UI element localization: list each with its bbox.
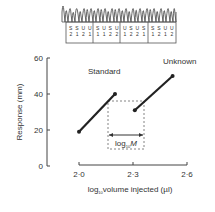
- data-point: [113, 92, 117, 96]
- y-tick-label: 40: [34, 90, 43, 99]
- x-tick-label: 2·6: [181, 170, 193, 179]
- data-point: [133, 108, 137, 112]
- unknown-label: Unknown: [163, 57, 196, 66]
- series-standard: [77, 92, 117, 134]
- strip-sub: 1: [76, 31, 79, 37]
- standard-label: Standard: [88, 67, 120, 76]
- strip-sub: 2: [130, 31, 133, 37]
- x-tick-label: 2·3: [127, 170, 139, 179]
- strip-sub: 1: [142, 31, 145, 37]
- strip-sub: 2: [109, 31, 112, 37]
- strip-sub: 2: [136, 31, 139, 37]
- data-point: [77, 130, 81, 134]
- data-point: [171, 74, 175, 78]
- y-tick-label: 20: [34, 126, 43, 135]
- y-axis: 0204060 Response (mm): [15, 54, 50, 171]
- strip-sub: 1: [88, 31, 91, 37]
- strip-sub: 1: [97, 31, 100, 37]
- y-tick-label: 0: [39, 162, 44, 171]
- strip-sub: 2: [82, 31, 85, 37]
- strip-sub: 1: [124, 31, 127, 37]
- strip-sub: 2: [158, 31, 161, 37]
- bioassay-chart: S2S1U2U1S1U1S2U2U1S2U2S1S1S2U1U2 0204060…: [0, 0, 215, 212]
- strip-sub: 2: [70, 31, 73, 37]
- strip-sub: 1: [164, 31, 167, 37]
- y-axis-label: Response (mm): [15, 83, 24, 140]
- strip-sub: 2: [115, 31, 118, 37]
- strip-sub: 2: [170, 31, 173, 37]
- strip-sub: 1: [103, 31, 106, 37]
- x-axis: 2·02·32·6 log10volume injected (µl): [73, 162, 193, 195]
- x-axis-label: log10volume injected (µl): [88, 185, 173, 195]
- series-unknown: [133, 74, 175, 112]
- y-tick-label: 60: [34, 54, 43, 63]
- x-tick-label: 2·0: [73, 170, 85, 179]
- strip-sub: 1: [152, 31, 155, 37]
- svg-text:log10M: log10M: [115, 139, 137, 149]
- trace-strip: S2S1U2U1S1U1S2U2U1S2U2S1S1S2U1U2: [62, 6, 176, 43]
